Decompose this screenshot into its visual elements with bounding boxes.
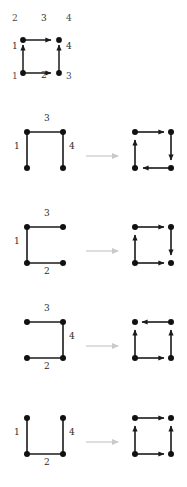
node-top-right [168,415,174,421]
node-top-right [56,37,62,43]
node-top-right [60,319,66,325]
node-top-left [24,224,30,230]
node-top-left [132,319,138,325]
transition-arrow [84,244,126,258]
node-top-left [24,415,30,421]
node-bottom-left [132,451,138,457]
source-graph-1-graphic [18,124,78,180]
node-top-left [132,415,138,421]
edge-label-top: 3 [41,14,47,23]
edge-label-top: 3 [44,114,50,123]
node-bottom-left [132,355,138,361]
node-bottom-left [20,70,26,76]
vertex-label-top-left: 2 [12,14,18,23]
node-bottom-right [168,451,174,457]
node-top-left [132,129,138,135]
source-graph-3-graphic [18,314,78,370]
edge-label-top: 3 [44,304,50,313]
node-bottom-right [168,165,174,171]
vertex-label-top-right: 4 [66,14,72,23]
node-bottom-left [132,260,138,266]
transition-arrow [84,339,126,353]
node-bottom-right [60,165,66,171]
node-top-right [60,415,66,421]
node-bottom-right [168,260,174,266]
node-bottom-right [60,260,66,266]
node-top-right [168,224,174,230]
node-top-left [24,319,30,325]
node-top-right [60,129,66,135]
result-graph-2-graphic [128,219,184,275]
node-top-right [60,224,66,230]
result-graph-4-graphic [128,410,184,466]
node-top-left [24,129,30,135]
node-bottom-right [56,70,62,76]
node-bottom-right [60,355,66,361]
result-graph-3-graphic [128,314,184,370]
node-bottom-left [132,165,138,171]
node-bottom-left [24,355,30,361]
node-top-left [132,224,138,230]
edge-label-top: 3 [44,209,50,218]
node-top-left [20,37,26,43]
node-bottom-right [60,451,66,457]
node-bottom-right [168,355,174,361]
node-top-right [168,319,174,325]
transition-arrow [84,149,126,163]
top-diagram-graphic [14,26,76,88]
figure-root: 2 4 1 3 1 2 3 4 [0,0,187,487]
result-graph-1-graphic [128,124,184,180]
source-graph-2-graphic [18,219,78,275]
transition-arrow [84,435,126,449]
node-top-right [168,129,174,135]
source-graph-4-graphic [18,410,78,466]
node-bottom-left [24,451,30,457]
node-bottom-left [24,260,30,266]
node-bottom-left [24,165,30,171]
